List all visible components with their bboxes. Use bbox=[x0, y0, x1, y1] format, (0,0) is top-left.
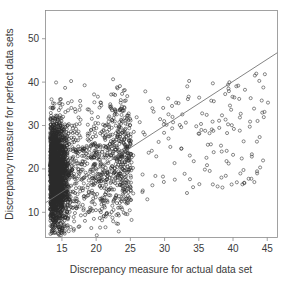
data-point bbox=[126, 213, 129, 216]
data-point bbox=[93, 93, 96, 96]
data-point bbox=[90, 111, 93, 114]
data-point bbox=[188, 178, 191, 181]
data-point bbox=[64, 86, 67, 89]
data-point bbox=[242, 140, 245, 143]
data-point bbox=[231, 95, 234, 98]
data-point bbox=[188, 154, 191, 157]
data-point bbox=[220, 114, 223, 117]
data-point bbox=[79, 99, 82, 102]
data-point bbox=[72, 216, 75, 219]
data-point bbox=[78, 108, 81, 111]
data-point bbox=[135, 116, 138, 119]
data-point bbox=[107, 155, 110, 158]
scatter-plot-figure: 15202530354045 1020304050 Discrepancy me… bbox=[0, 0, 288, 284]
y-axis-ticks: 1020304050 bbox=[28, 33, 46, 218]
data-point bbox=[232, 153, 235, 156]
data-point bbox=[88, 151, 91, 154]
data-point bbox=[195, 125, 198, 128]
data-point bbox=[192, 160, 195, 163]
data-point bbox=[235, 85, 238, 88]
data-point bbox=[249, 120, 252, 123]
data-point bbox=[239, 112, 242, 115]
y-axis-title: Discrepancy measure for perfect data set… bbox=[4, 28, 15, 219]
data-point bbox=[243, 88, 246, 91]
data-point bbox=[121, 92, 124, 95]
data-point bbox=[128, 209, 131, 212]
data-point bbox=[93, 101, 96, 104]
data-point bbox=[167, 113, 170, 116]
data-point bbox=[262, 116, 265, 119]
data-point bbox=[169, 145, 172, 148]
data-point bbox=[253, 107, 256, 110]
data-point bbox=[167, 137, 170, 140]
data-point bbox=[146, 198, 149, 201]
data-point bbox=[256, 119, 259, 122]
data-point bbox=[70, 100, 73, 103]
data-point bbox=[90, 226, 93, 229]
data-point bbox=[205, 113, 208, 116]
data-point bbox=[203, 168, 206, 171]
data-point bbox=[77, 116, 80, 119]
data-point bbox=[198, 96, 201, 99]
data-point bbox=[95, 234, 98, 237]
data-point bbox=[93, 203, 96, 206]
data-point bbox=[259, 166, 262, 169]
data-point bbox=[200, 128, 203, 131]
data-point bbox=[120, 113, 123, 116]
data-point bbox=[86, 162, 89, 165]
data-point bbox=[102, 202, 105, 205]
data-point bbox=[83, 213, 86, 216]
data-point bbox=[225, 149, 228, 152]
data-point bbox=[58, 114, 61, 117]
data-point bbox=[132, 192, 135, 195]
y-tick-label: 40 bbox=[28, 77, 40, 88]
data-point bbox=[143, 133, 146, 136]
data-point bbox=[147, 151, 150, 154]
data-point bbox=[173, 178, 176, 181]
data-points-layer bbox=[49, 72, 270, 237]
data-point bbox=[114, 124, 117, 127]
data-point bbox=[94, 209, 97, 212]
data-point bbox=[206, 143, 209, 146]
data-point bbox=[96, 116, 99, 119]
data-point bbox=[171, 115, 174, 118]
data-point bbox=[141, 173, 144, 176]
data-point bbox=[225, 160, 228, 163]
data-point bbox=[83, 84, 86, 87]
data-point bbox=[224, 174, 227, 177]
data-point bbox=[104, 226, 107, 229]
data-point bbox=[205, 156, 208, 159]
data-point bbox=[263, 73, 266, 76]
data-point bbox=[218, 119, 221, 122]
data-point bbox=[78, 122, 81, 125]
data-point bbox=[98, 106, 101, 109]
data-point bbox=[173, 162, 176, 165]
data-point bbox=[233, 96, 236, 99]
data-point bbox=[83, 219, 86, 222]
data-point bbox=[237, 84, 240, 87]
data-point bbox=[183, 172, 186, 175]
data-point bbox=[149, 100, 152, 103]
data-point bbox=[212, 151, 215, 154]
data-point bbox=[150, 149, 153, 152]
data-point bbox=[192, 186, 195, 189]
data-point bbox=[117, 230, 120, 233]
data-point bbox=[230, 124, 233, 127]
data-point bbox=[73, 212, 76, 215]
data-point bbox=[260, 99, 263, 102]
data-point bbox=[129, 176, 132, 179]
data-point bbox=[235, 181, 238, 184]
data-point bbox=[238, 129, 241, 132]
data-point bbox=[112, 78, 115, 81]
data-point bbox=[99, 226, 102, 229]
data-point bbox=[100, 203, 103, 206]
data-point bbox=[50, 98, 53, 101]
data-point bbox=[163, 120, 166, 123]
data-point bbox=[204, 129, 207, 132]
data-point bbox=[67, 109, 70, 112]
data-point bbox=[111, 204, 114, 207]
data-point bbox=[106, 130, 109, 133]
data-point bbox=[242, 168, 245, 171]
data-point bbox=[211, 183, 214, 186]
data-point bbox=[220, 150, 223, 153]
